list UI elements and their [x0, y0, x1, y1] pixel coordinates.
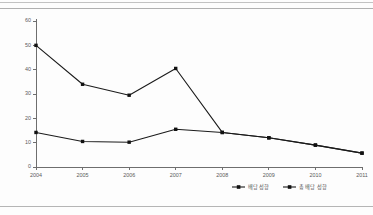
- x-tick-label: 2010: [309, 172, 321, 178]
- top-rule-upper: [0, 2, 373, 3]
- data-point-marker: [314, 143, 317, 146]
- x-tick-label: 2006: [123, 172, 135, 178]
- line-chart: 0102030405060 20042005200620072008200920…: [0, 11, 373, 205]
- y-tick-label: 60: [25, 17, 31, 23]
- y-tick-label: 40: [25, 66, 31, 72]
- series-line: [36, 45, 362, 153]
- legend-entry-1[interactable]: 배당 성향: [232, 183, 269, 191]
- data-point-marker: [81, 83, 84, 86]
- data-point-marker: [34, 131, 37, 134]
- series-2: [34, 44, 363, 155]
- data-point-marker: [81, 140, 84, 143]
- y-axis: 0102030405060: [25, 17, 36, 169]
- y-tick-label: 10: [25, 139, 31, 145]
- x-tick-label: 2004: [30, 172, 42, 178]
- series-line: [36, 129, 362, 153]
- chart-svg: 0102030405060 20042005200620072008200920…: [0, 11, 373, 205]
- chart-page: 0102030405060 20042005200620072008200920…: [0, 0, 373, 215]
- legend-entry-2[interactable]: 총 배당 성향: [283, 183, 327, 191]
- x-tick-label: 2008: [216, 172, 228, 178]
- data-point-marker: [34, 44, 37, 47]
- legend-marker-icon: [237, 185, 241, 189]
- top-rule-lower: [0, 8, 373, 9]
- data-point-marker: [174, 128, 177, 131]
- data-point-marker: [174, 67, 177, 70]
- data-point-marker: [127, 94, 130, 97]
- data-point-marker: [267, 136, 270, 139]
- series-layer: [34, 44, 363, 155]
- chart-legend: 배당 성향총 배당 성향: [232, 183, 327, 191]
- bottom-rule: [0, 206, 373, 207]
- series-1: [34, 128, 363, 155]
- y-tick-label: 20: [25, 115, 31, 121]
- y-tick-label: 0: [28, 163, 31, 169]
- y-tick-label: 50: [25, 42, 31, 48]
- data-point-marker: [360, 151, 363, 154]
- legend-label: 총 배당 성향: [299, 183, 327, 191]
- x-tick-label: 2005: [77, 172, 89, 178]
- y-tick-label: 30: [25, 90, 31, 96]
- legend-label: 배당 성향: [248, 183, 269, 191]
- data-point-marker: [127, 140, 130, 143]
- data-point-marker: [221, 131, 224, 134]
- x-tick-label: 2007: [170, 172, 182, 178]
- x-tick-label: 2009: [263, 172, 275, 178]
- x-axis: 20042005200620072008200920102011: [30, 167, 368, 178]
- legend-marker-icon: [288, 185, 292, 189]
- x-tick-label: 2011: [356, 172, 368, 178]
